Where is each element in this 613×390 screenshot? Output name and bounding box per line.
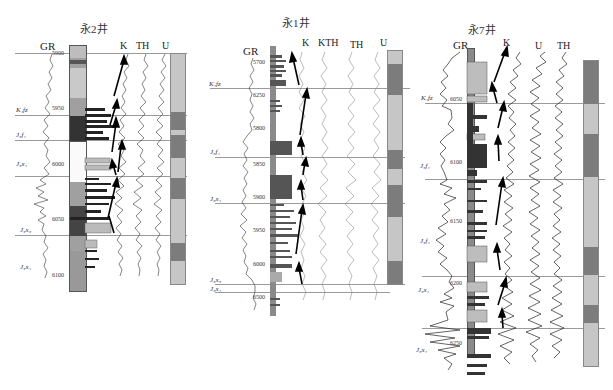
lithology-bars: [0, 0, 613, 390]
cycle-segment-light: [584, 177, 598, 247]
cycle-segment-light: [584, 323, 598, 366]
cycle-segment-dark: [584, 134, 598, 177]
cycle-segment-dark: [584, 247, 598, 274]
cycle-segment-light: [584, 275, 598, 306]
th-curve: [550, 52, 567, 358]
cycle-segment-dark: [584, 61, 598, 104]
gr-curve: [425, 52, 460, 370]
cycle-segment-light: [584, 104, 598, 135]
cycle-segment-dark: [584, 305, 598, 323]
u-curve: [526, 52, 546, 362]
trend-arrows: [490, 47, 508, 328]
cycle-bar-yong7: [583, 60, 599, 367]
